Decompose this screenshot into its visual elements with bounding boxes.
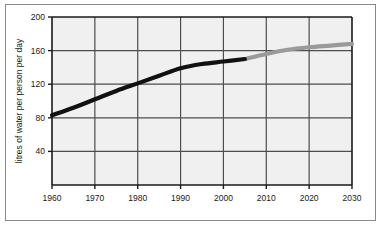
y-tick-label: 120 bbox=[31, 79, 45, 89]
x-tick-label: 1990 bbox=[171, 193, 190, 203]
y-axis-tick-labels: 4080120160200 bbox=[31, 12, 45, 156]
y-tick-label: 80 bbox=[36, 113, 46, 123]
y-tick-label: 40 bbox=[36, 146, 46, 156]
x-tick-label: 1980 bbox=[128, 193, 147, 203]
plot-area-background bbox=[52, 17, 352, 185]
x-tick-label: 1960 bbox=[43, 193, 62, 203]
y-tick-label: 160 bbox=[31, 46, 45, 56]
line-chart: 4080120160200 19601970198019902000201020… bbox=[0, 0, 385, 230]
x-tick-label: 2010 bbox=[257, 193, 276, 203]
x-tick-label: 2030 bbox=[343, 193, 362, 203]
chart-figure: 4080120160200 19601970198019902000201020… bbox=[0, 0, 385, 230]
x-tick-label: 1970 bbox=[85, 193, 104, 203]
x-axis-tick-labels: 19601970198019902000201020202030 bbox=[43, 193, 362, 203]
x-tick-label: 2020 bbox=[300, 193, 319, 203]
y-axis-title: litres of water per person per day bbox=[14, 38, 24, 163]
y-tick-label: 200 bbox=[31, 12, 45, 22]
x-tick-label: 2000 bbox=[214, 193, 233, 203]
